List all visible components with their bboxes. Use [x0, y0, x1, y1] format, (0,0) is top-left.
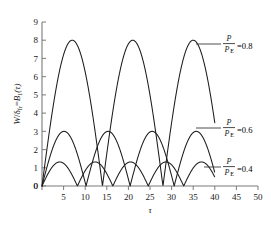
annotation-denominator: P [224, 45, 230, 54]
y-axis-title-arg: (τ) [12, 83, 22, 92]
x-tick-label: 35 [189, 192, 199, 202]
y-tick-label: 9 [34, 17, 39, 27]
y-axis-title: W/δfr=B1(τ) [12, 83, 23, 124]
y-tick-label: 6 [34, 72, 39, 82]
annotation-denominator-sub: E [230, 132, 234, 138]
x-axis-tick-labels: 0 5 10 15 20 25 30 35 40 45 50 [34, 181, 264, 201]
curve-p-pe-0-8 [42, 40, 215, 186]
y-axis-tick-labels: 0 1 2 3 4 5 6 7 8 9 [34, 17, 39, 191]
annotation-denominator: P [224, 168, 230, 177]
annotation-denominator: P [224, 129, 230, 138]
x-tick-label: 20 [124, 192, 134, 202]
annotation-numerator: P [226, 34, 232, 43]
curve-p-pe-0-4 [42, 162, 215, 186]
x-axis-title: τ [148, 205, 152, 215]
x-tick-label: 50 [254, 192, 264, 202]
x-tick-label: 15 [102, 192, 112, 202]
svg-text:W/δfr=B1(τ): W/δfr=B1(τ) [12, 83, 23, 124]
y-tick-label: 5 [34, 90, 39, 100]
annotation-numerator: P [226, 157, 232, 166]
y-tick-label: 2 [34, 145, 39, 155]
y-tick-label: 3 [34, 127, 39, 137]
annotation-p-pe-0-6: P P E =0.6 [196, 118, 252, 138]
curves-group [42, 40, 215, 186]
x-tick-label: 45 [232, 192, 242, 202]
x-tick-label-zero: 0 [34, 181, 39, 191]
x-tick-label: 40 [210, 192, 220, 202]
y-tick-label: 8 [34, 35, 39, 45]
annotation-numerator: P [226, 118, 232, 127]
x-tick-label: 30 [167, 192, 177, 202]
chart-figure: 0 1 2 3 4 5 6 7 8 9 0 5 [0, 0, 271, 230]
y-tick-label: 7 [34, 54, 39, 64]
annotation-value: =0.4 [237, 164, 253, 174]
annotation-denominator-sub: E [230, 48, 234, 54]
x-tick-label: 5 [61, 192, 66, 202]
x-tick-label: 25 [146, 192, 156, 202]
y-tick-label: 1 [34, 163, 39, 173]
annotation-value: =0.8 [237, 41, 252, 51]
x-axis-ticks [42, 186, 258, 190]
curve-p-pe-0-6 [42, 131, 215, 186]
y-tick-label: 4 [34, 108, 39, 118]
annotation-p-pe-0-8: P P E =0.8 [196, 34, 252, 54]
annotation-value: =0.6 [237, 125, 252, 135]
annotation-denominator-sub: E [230, 171, 234, 177]
x-tick-label: 10 [81, 192, 91, 202]
chart-svg: 0 1 2 3 4 5 6 7 8 9 0 5 [0, 0, 271, 230]
